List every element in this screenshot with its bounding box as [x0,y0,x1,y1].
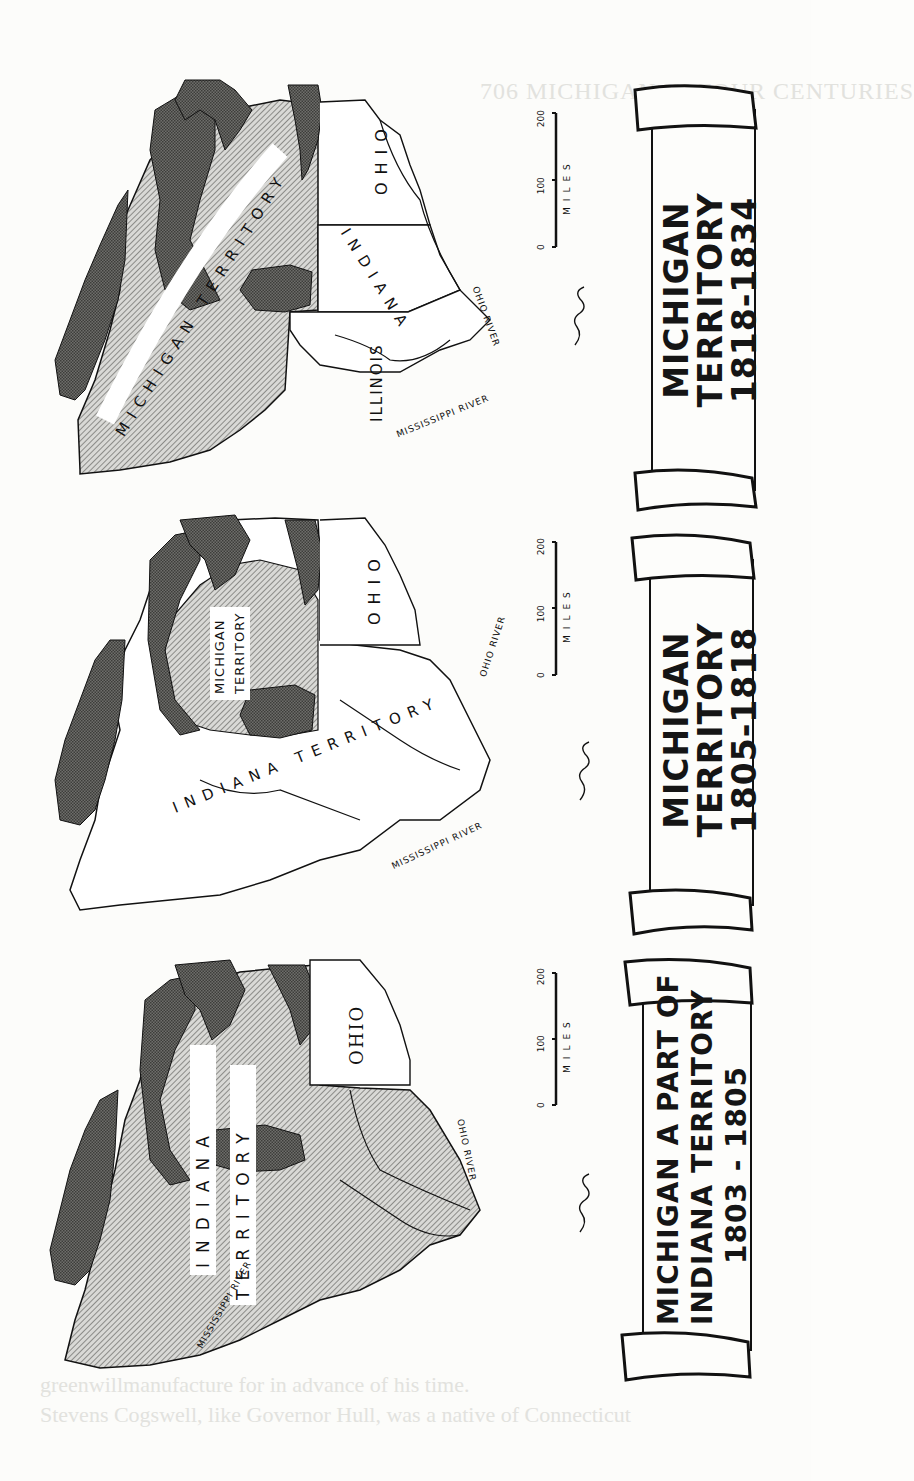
scroll-title-line: TERRITORY [694,140,728,460]
scale-bar [552,542,556,675]
scale-ticks: 0100200 [536,538,546,678]
scroll-title-line: TERRITORY [694,580,728,880]
scroll-title-line: MICHIGAN A PART OF [652,1005,686,1325]
scale-bar [552,113,556,247]
scroll-title: MICHIGAN TERRITORY 1818-1834 [660,140,762,460]
map-1805-1818 [55,515,589,910]
state-label-illinois: ILLINOIS [368,343,386,422]
scale-ticks: 0100200 [536,110,546,250]
map-1803-1805 [50,960,589,1368]
scroll-title-line: 1818-1834 [728,140,762,460]
scroll-title-line: INDIANA TERRITORY [686,1005,720,1325]
territory-label-indiana: INDIANA [193,1126,213,1268]
scroll-title-line: 1803 - 1805 [720,1005,754,1325]
lake-erie [240,685,315,738]
river-tail [580,742,589,800]
scale-ticks: 0100200 [536,968,546,1108]
scroll-title-line: 1805-1818 [728,580,762,880]
state-label-ohio: OHIO [372,121,391,195]
state-label-ohio: OHIO [365,551,384,625]
territory-label: MICHIGAN TERRITORY [210,607,250,700]
scale-unit: MILES [562,586,572,643]
scroll-title-line: MICHIGAN [660,140,694,460]
river-tail [580,1174,589,1232]
state-label-ohio: OHIO [346,1005,367,1065]
scroll-title: MICHIGAN A PART OF INDIANA TERRITORY 180… [652,1005,754,1325]
river-tail [575,287,584,345]
scale-bar [552,973,556,1105]
scale-unit: MILES [562,158,572,215]
scroll-title-line: MICHIGAN [660,580,694,880]
scale-unit: MILES [562,1016,572,1073]
scroll-title: MICHIGAN TERRITORY 1805-1818 [660,580,762,880]
lake-erie [240,265,312,312]
